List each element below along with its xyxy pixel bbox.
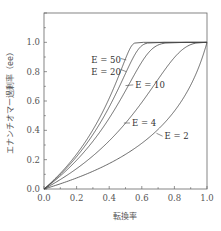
curve-label: E = 20: [91, 67, 121, 77]
y-tick-label: 0.6: [26, 96, 40, 106]
plot-frame: [44, 13, 207, 189]
plot-area: 0.00.20.40.60.81.00.00.20.40.60.81.0E = …: [26, 13, 213, 203]
y-tick-label: 1.0: [26, 37, 40, 47]
x-tick-label: 1.0: [200, 193, 214, 203]
curve-e10: [44, 42, 207, 189]
x-tick-label: 0.0: [37, 193, 51, 203]
curve-e2: [44, 42, 207, 189]
x-tick-label: 0.4: [102, 193, 116, 203]
curve-label: E = 50: [91, 55, 121, 65]
chart: 0.00.20.40.60.81.00.00.20.40.60.81.0E = …: [0, 0, 221, 231]
y-axis-title: エナンチオマー過剰率（ee）: [5, 48, 15, 154]
x-tick-label: 0.2: [70, 193, 84, 203]
label-leader: [126, 85, 134, 86]
x-tick-label: 0.6: [135, 193, 149, 203]
curve-e20: [44, 42, 207, 189]
label-leader: [121, 69, 127, 71]
y-tick-label: 0.8: [26, 67, 40, 77]
curve-label: E = 4: [132, 118, 156, 128]
label-leader: [156, 133, 162, 136]
x-tick-label: 0.8: [168, 193, 182, 203]
y-tick-label: 0.2: [26, 155, 40, 165]
curve-e50: [44, 42, 207, 189]
curve-label: E = 10: [135, 80, 165, 90]
curve-label: E = 2: [165, 131, 189, 141]
y-tick-label: 0.4: [26, 125, 40, 135]
x-axis-title: 転換率: [113, 211, 137, 221]
curve-e4: [44, 42, 207, 189]
